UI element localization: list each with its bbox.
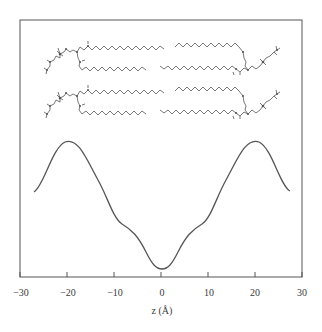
x-tick-label: −10	[107, 287, 123, 298]
x-tick-label: 30	[297, 287, 307, 298]
lipid-molecule-left-row2	[44, 85, 164, 118]
lipid-molecule-left-row1	[44, 41, 164, 74]
x-tick-label: 10	[204, 287, 214, 298]
density-profile-curve	[34, 141, 290, 269]
plot-frame	[20, 20, 302, 277]
x-tick-label: 0	[160, 287, 165, 298]
density-profile-figure: −30 −20 −10 0 10 20 30 z (Å)	[0, 0, 322, 332]
x-tick-label: −30	[13, 287, 29, 298]
x-axis-title: z (Å)	[152, 305, 173, 317]
lipid-molecule-right-row1	[160, 43, 280, 75]
lipid-bilayer-illustration	[44, 41, 280, 119]
x-tick-labels: −30 −20 −10 0 10 20 30	[13, 287, 307, 298]
x-tick-label: −20	[60, 287, 76, 298]
lipid-molecule-right-row2	[160, 87, 280, 119]
x-axis	[20, 272, 302, 277]
x-tick-label: 20	[250, 287, 260, 298]
